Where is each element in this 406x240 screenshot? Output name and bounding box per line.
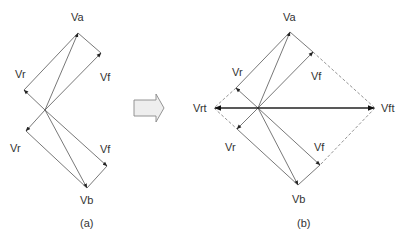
label-vft: Vft [381, 102, 394, 114]
caption-a: (a) [80, 217, 93, 229]
panel-a: Va Vr Vf Vr Vf Vb (a) [10, 11, 111, 229]
parallelogram-edge [290, 32, 313, 52]
label-vb: Vb [292, 193, 305, 205]
label-va: Va [283, 11, 297, 23]
caption-b: (b) [297, 217, 310, 229]
vector-vr-upper [24, 90, 45, 110]
dashed-edge [320, 108, 375, 165]
vector-vb [258, 108, 298, 185]
parallelogram-edge [298, 165, 320, 185]
parallelogram-edge [78, 33, 101, 53]
vector-vr-lower [237, 108, 258, 129]
label-vr-upper: Vr [232, 66, 243, 78]
label-vb: Vb [80, 194, 93, 206]
vector-vb [45, 110, 87, 188]
phasor-diagram: Va Vr Vf Vr Vf Vb (a) Va Vr Vf [0, 0, 406, 240]
dashed-edge [313, 52, 375, 108]
vector-vr-upper [236, 88, 258, 108]
vector-vf-upper [45, 53, 101, 110]
label-vf-upper: Vf [311, 70, 322, 82]
label-vrt: Vrt [193, 102, 207, 114]
parallelogram-edge [87, 166, 107, 188]
label-vf-upper: Vf [100, 71, 111, 83]
vector-va [258, 32, 290, 108]
dashed-edge [214, 108, 237, 129]
label-vf-lower: Vf [314, 141, 325, 153]
parallelogram-edge [237, 129, 298, 185]
vector-va [45, 33, 78, 110]
label-va: Va [71, 11, 85, 23]
label-vr-upper: Vr [15, 68, 26, 80]
label-vr-lower: Vr [10, 142, 21, 154]
panel-b: Va Vr Vf Vrt Vft Vr Vf Vb (b) [193, 11, 394, 229]
vector-vf-upper [258, 52, 313, 108]
block-arrow-right-icon [134, 94, 164, 122]
label-vf-lower: Vf [100, 143, 111, 155]
parallelogram-edge [236, 32, 290, 88]
dashed-edge [214, 88, 236, 108]
vector-vr-lower [26, 110, 45, 131]
label-vr-lower: Vr [225, 141, 236, 153]
parallelogram-edge [24, 33, 78, 90]
